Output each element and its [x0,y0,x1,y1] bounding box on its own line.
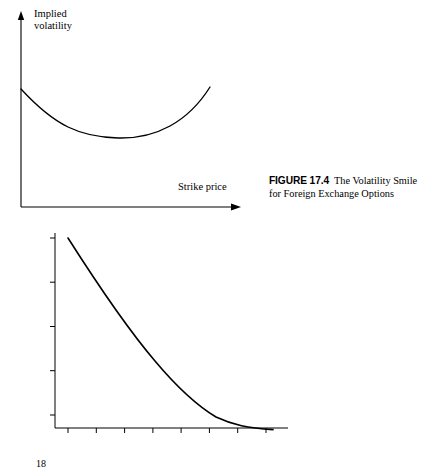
figure-caption-number: FIGURE 17.4 [269,175,329,186]
implied-volatility-skew-chart: 18 16 14 12 10 90 92 94 96 98 100 102 10… [0,225,429,475]
y-tick-label-18: 18 [24,458,46,469]
y-axis-arrowhead [18,11,24,20]
implied-volatility-curve [68,238,273,430]
figure-caption: FIGURE 17.4 The Volatility Smile for For… [269,174,429,200]
x-axis-arrowhead [231,204,241,211]
top-chart-x-axis-label: Strike price [178,181,227,193]
x-axis-ticks [68,428,266,433]
y-axis-ticks [50,238,55,415]
top-chart-y-axis-label: Implied volatility [34,8,72,32]
chart-y-axis-label: Implied volatility (%) [16,466,27,475]
volatility-smile-curve [21,87,210,138]
skew-chart-svg [0,225,429,475]
